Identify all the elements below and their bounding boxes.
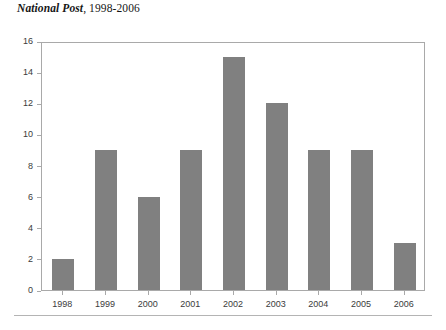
x-axis-tick-mark: [233, 291, 234, 295]
bar-2004[interactable]: [308, 150, 330, 290]
bar-slot: [127, 43, 170, 290]
bar-2000[interactable]: [138, 197, 160, 290]
bar-slot: [298, 43, 341, 290]
x-axis-tick-mark: [105, 291, 106, 295]
x-axis-tick-label: 2005: [340, 299, 383, 310]
bar-2003[interactable]: [266, 103, 288, 290]
x-axis-tick-mark: [361, 291, 362, 295]
x-axis-tick-mark: [148, 291, 149, 295]
x-axis-tick-label: 2000: [126, 299, 169, 310]
bar-slot: [85, 43, 128, 290]
y-axis-tick-label: 4: [28, 223, 33, 234]
bar-2002[interactable]: [223, 57, 245, 290]
bar-2001[interactable]: [180, 150, 202, 290]
bar-chart-figure: National Post, 1998-2006 0246810121416 1…: [0, 0, 446, 330]
bars-layer: [42, 43, 424, 290]
x-axis-tick-label: 2004: [297, 299, 340, 310]
x-axis-tick-mark: [404, 291, 405, 295]
y-axis-tick-label: 0: [28, 285, 33, 296]
chart-title: National Post, 1998-2006: [17, 1, 140, 15]
x-axis-tick-label: 2006: [382, 299, 425, 310]
x-axis-tick-mark: [190, 291, 191, 295]
bar-slot: [213, 43, 256, 290]
plot-area: [41, 42, 425, 291]
x-axis-tick-label: 1999: [84, 299, 127, 310]
bar-1998[interactable]: [52, 259, 74, 290]
bar-2006[interactable]: [394, 243, 416, 290]
bar-1999[interactable]: [95, 150, 117, 290]
bar-slot: [255, 43, 298, 290]
x-axis-tick-mark: [318, 291, 319, 295]
y-axis-tick-label: 2: [28, 254, 33, 265]
y-axis-tick-label: 12: [23, 98, 33, 109]
bar-slot: [170, 43, 213, 290]
x-axis-tick-label: 2001: [169, 299, 212, 310]
y-axis-tick-label: 14: [23, 67, 33, 78]
x-axis-tick-label: 1998: [41, 299, 84, 310]
bar-2005[interactable]: [351, 150, 373, 290]
x-axis-tick-label: 2003: [254, 299, 297, 310]
y-axis-tick-label: 6: [28, 192, 33, 203]
bar-slot: [383, 43, 426, 290]
bottom-rule-divider: [14, 315, 432, 316]
x-axis-tick-mark: [276, 291, 277, 295]
chart-title-range: , 1998-2006: [83, 2, 140, 14]
y-axis-tick-label: 16: [23, 36, 33, 47]
chart-title-publication: National Post: [17, 2, 83, 14]
bar-slot: [42, 43, 85, 290]
y-axis-tick-label: 8: [28, 161, 33, 172]
y-axis-tick-label: 10: [23, 129, 33, 140]
x-axis-tick-label: 2002: [212, 299, 255, 310]
bar-slot: [341, 43, 384, 290]
x-axis-tick-mark: [62, 291, 63, 295]
